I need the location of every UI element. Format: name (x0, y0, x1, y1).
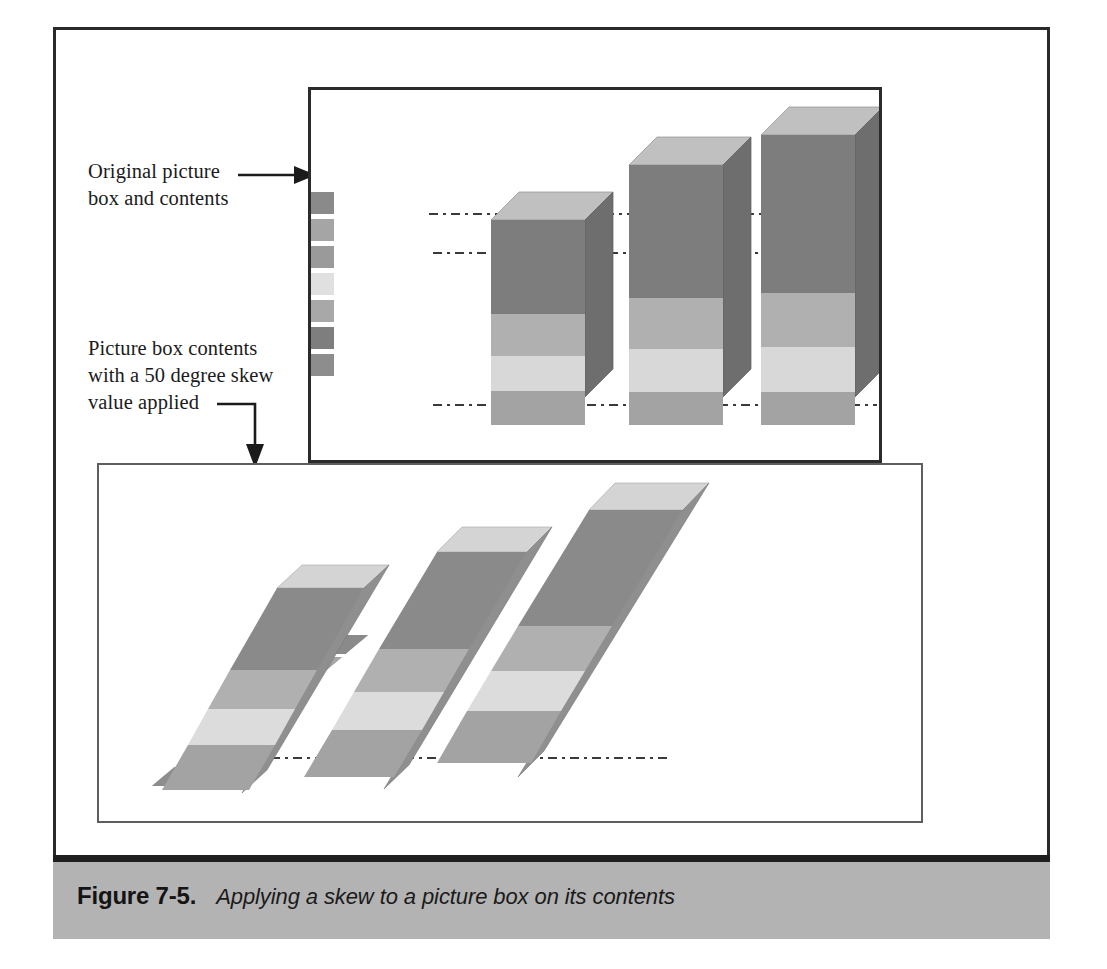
legend-swatch (308, 327, 334, 349)
bar-segment (761, 347, 855, 392)
bar-segment (761, 392, 855, 425)
legend-swatch (308, 246, 334, 268)
legend-swatch (308, 219, 334, 241)
figure-caption-label: Figure 7-5. (77, 882, 196, 910)
bar-column-2 (629, 165, 723, 425)
picture-box-original[interactable] (308, 87, 882, 463)
chart-skewed (99, 465, 921, 821)
bar-segment (491, 356, 585, 391)
bar-side-face (723, 137, 753, 427)
bar-segment (629, 298, 723, 349)
legend-swatch (308, 300, 334, 322)
chart-legend (308, 192, 339, 382)
bar-column-1 (491, 220, 585, 425)
bar-column-3-skewed (499, 483, 923, 813)
bar-segment (629, 165, 723, 298)
bar-side-face (585, 192, 615, 427)
legend-swatch (308, 354, 334, 376)
chart-original (311, 90, 879, 460)
legend-swatch (308, 273, 334, 295)
bar-segment (491, 314, 585, 356)
bar-segment (761, 135, 855, 293)
picture-box-skewed[interactable] (97, 463, 923, 823)
figure-caption-text: Applying a skew to a picture box on its … (216, 884, 675, 910)
bar-side-face (855, 107, 882, 427)
bar-segment (629, 392, 723, 425)
arrow-to-skewed-box (215, 398, 285, 470)
bar-segment (491, 391, 585, 425)
figure-root: Original picture box and contents Pictur… (0, 0, 1107, 969)
figure-caption: Figure 7-5. Applying a skew to a picture… (77, 882, 675, 910)
bar-segment (629, 349, 723, 392)
legend-swatch (308, 192, 334, 214)
arrow-to-original-box (238, 160, 318, 192)
bar-column-3 (761, 135, 855, 425)
annotation-original-box-label: Original picture box and contents (88, 158, 229, 212)
bar-segment (491, 220, 585, 314)
bar-segment (761, 293, 855, 347)
figure-caption-band: Figure 7-5. Applying a skew to a picture… (53, 855, 1050, 939)
